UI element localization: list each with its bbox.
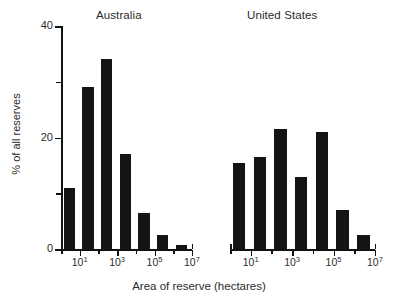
bar-australia-10^6-10^7 — [176, 245, 187, 249]
x-tick-australia-10e6 — [173, 250, 175, 254]
y-minor-tick-30 — [56, 82, 61, 84]
x-axis-start-cap-australia — [61, 244, 63, 249]
panel-title-united-states: United States — [247, 9, 317, 21]
x-tick-label-united-states-10e5: 105 — [326, 256, 342, 268]
chart-figure: Australia United States % of all reserve… — [0, 0, 398, 305]
bar-australia-10^0-10^1 — [64, 188, 75, 249]
y-tick-label-20: 20 — [27, 131, 53, 143]
x-axis-end-cap-australia — [192, 244, 194, 249]
x-tick-label-australia-10e1: 101 — [72, 256, 88, 268]
bar-united-states-10^1-10^2 — [254, 157, 266, 249]
x-tick-label-united-states-10e7: 107 — [367, 256, 383, 268]
x-tick-australia-10e0 — [61, 250, 63, 254]
y-tick-label-0: 0 — [27, 242, 53, 254]
bar-united-states-10^4-10^5 — [316, 132, 328, 249]
x-tick-australia-10e2 — [98, 250, 100, 254]
x-tick-united-states-10e0 — [230, 250, 232, 254]
y-minor-tick-10 — [56, 193, 61, 195]
y-axis-label: % of all reserves — [10, 74, 22, 194]
x-tick-label-australia-10e5: 105 — [147, 256, 163, 268]
x-tick-united-states-10e2 — [271, 250, 273, 254]
x-axis-start-cap-united-states — [230, 244, 232, 249]
y-axis-line — [61, 26, 63, 249]
panel-title-australia: Australia — [96, 9, 142, 21]
x-tick-united-states-10e6 — [354, 250, 356, 254]
bar-united-states-10^6-10^7 — [357, 235, 369, 249]
x-tick-label-australia-10e3: 103 — [109, 256, 125, 268]
bar-australia-10^3-10^4 — [120, 154, 131, 249]
x-tick-australia-10e4 — [136, 250, 138, 254]
bar-united-states-10^3-10^4 — [295, 177, 307, 249]
x-tick-label-united-states-10e1: 101 — [243, 256, 259, 268]
bar-united-states-10^5-10^6 — [336, 210, 348, 249]
bar-australia-10^4-10^5 — [138, 213, 149, 249]
bar-australia-10^5-10^6 — [157, 235, 168, 249]
x-tick-label-australia-10e7: 107 — [184, 256, 200, 268]
y-tick-label-40: 40 — [27, 19, 53, 31]
bar-australia-10^2-10^3 — [101, 59, 112, 249]
y-tick-20 — [55, 138, 61, 140]
bar-united-states-10^2-10^3 — [274, 129, 286, 249]
x-axis-label: Area of reserve (hectares) — [0, 280, 398, 292]
y-tick-40 — [55, 26, 61, 28]
x-tick-label-united-states-10e3: 103 — [284, 256, 300, 268]
bar-united-states-10^0-10^1 — [233, 163, 245, 249]
bar-australia-10^1-10^2 — [82, 87, 93, 249]
x-axis-end-cap-united-states — [375, 244, 377, 249]
x-tick-united-states-10e4 — [313, 250, 315, 254]
